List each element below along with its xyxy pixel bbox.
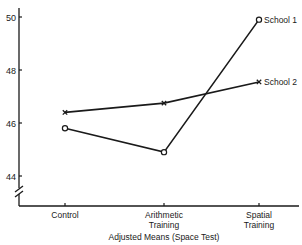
x-tick-label: Training [244,220,275,230]
y-tick-label: 50 [6,13,16,23]
y-tick-label: 44 [6,172,16,182]
x-ticks: ControlArithmeticTrainingSpatialTraining [51,203,274,230]
circle-marker-icon [161,150,166,155]
circle-marker-icon [256,17,261,22]
series-group: School 1School 2 [62,15,297,155]
y-tick-label: 48 [6,66,16,76]
x-tick-label: Arithmetic [145,210,184,220]
x-tick-label: Spatial [246,210,272,220]
x-tick-label: Control [51,210,79,220]
x-tick-label: Training [149,220,180,230]
circle-marker-icon [62,126,67,131]
series-line [65,20,259,153]
series-label: School 1 [264,15,297,25]
series-line [65,82,259,112]
x-axis-title: Adjusted Means (Space Test) [109,232,220,242]
y-tick-label: 46 [6,119,16,129]
series-label: School 2 [264,77,297,87]
line-chart: 44464850 ControlArithmeticTrainingSpatia… [0,0,302,245]
